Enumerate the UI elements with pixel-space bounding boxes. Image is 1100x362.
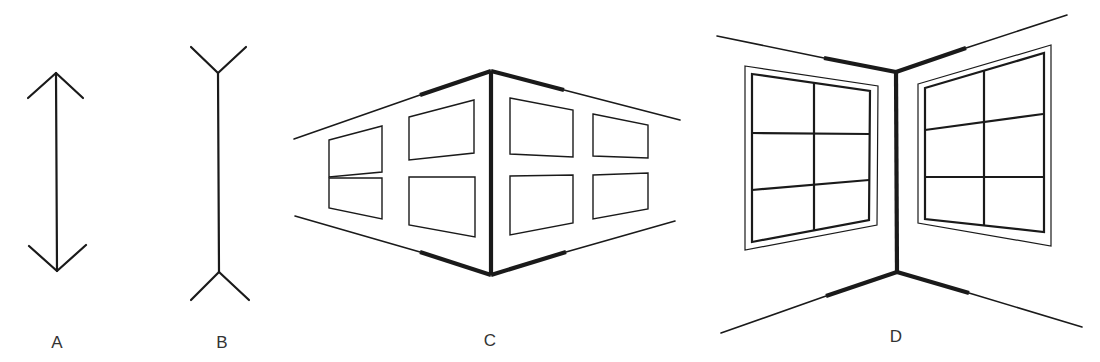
panel-d-floor-right-edge	[969, 293, 1082, 327]
panel-c-base-right-edge	[566, 221, 675, 252]
panel-d-right-window	[918, 45, 1051, 246]
panel-d-ceiling-left-edge	[717, 36, 824, 58]
panel-c-window	[593, 114, 648, 158]
panel-d-ceiling-right-edge	[966, 15, 1067, 48]
panel-c-window	[510, 175, 573, 235]
panel-a: A	[28, 73, 86, 352]
panel-c-window	[409, 177, 475, 237]
panel-b-bottom-fins	[191, 272, 249, 300]
panel-c-window	[409, 100, 474, 160]
panel-c-base-left-corner-segment	[420, 252, 491, 275]
panel-c-base-left-edge	[295, 216, 420, 252]
panel-c-roof-left-corner-segment	[420, 71, 491, 95]
panel-a-label: A	[51, 333, 63, 352]
panel-d-left-window-upper-muntin	[752, 133, 869, 134]
panel-c-label: C	[484, 331, 496, 350]
panel-d-floor-left-edge	[721, 296, 826, 333]
panel-c-roof-right-edge	[564, 90, 680, 120]
panel-c-roof-right-corner-segment	[491, 71, 564, 90]
panel-d-left-window-lower-muntin	[752, 180, 869, 190]
panel-d-ceiling-left-corner-segment	[824, 58, 896, 72]
panel-c-window	[329, 178, 382, 219]
muller-lyer-figure: A B C	[0, 0, 1100, 362]
panel-b-top-fins	[191, 47, 246, 73]
panel-c-base-right-corner-segment	[491, 252, 566, 275]
panel-b-label: B	[216, 333, 227, 352]
panel-d: D	[717, 15, 1082, 346]
panel-b-shaft	[218, 73, 219, 272]
panel-c-window	[329, 126, 382, 177]
panel-d-floor-right-corner-segment	[897, 272, 969, 293]
panel-b: B	[191, 47, 249, 352]
panel-d-floor-left-corner-segment	[826, 272, 897, 296]
panel-d-ceiling-right-corner-segment	[896, 48, 966, 72]
panel-d-vertical-corner	[896, 72, 897, 272]
panel-c: C	[294, 71, 680, 350]
panel-d-left-window-inner-frame	[752, 74, 870, 242]
panel-c-window	[593, 173, 648, 219]
panel-a-shaft	[56, 73, 57, 271]
panel-d-left-window	[745, 66, 878, 250]
panel-d-label: D	[890, 327, 902, 346]
panel-c-window	[510, 98, 573, 157]
